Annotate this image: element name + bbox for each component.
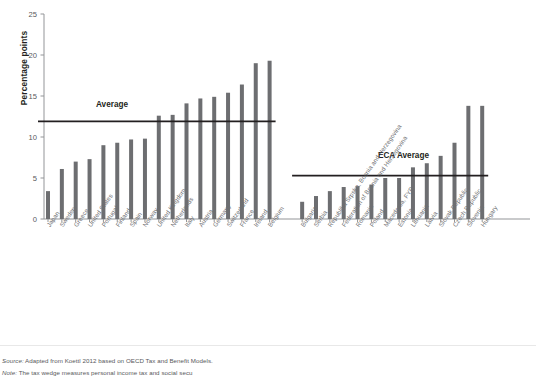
note-text: The tax wedge measures personal income t…: [17, 369, 193, 376]
y-tick-label: 0: [17, 215, 37, 224]
bar: [46, 191, 50, 219]
y-tick-label: 15: [17, 92, 37, 101]
bar: [226, 93, 230, 219]
bar: [212, 97, 216, 219]
y-tick-label: 10: [17, 133, 37, 142]
note-label: Note:: [2, 369, 17, 376]
y-tick-label: 20: [17, 51, 37, 60]
average-line-label: Average: [96, 100, 128, 109]
bar: [143, 139, 147, 219]
bar: [480, 106, 484, 219]
source-note: Source: Adapted from Koettl 2012 based o…: [2, 357, 213, 364]
bar: [60, 169, 64, 219]
bar: [198, 98, 202, 219]
bar: [129, 139, 133, 219]
bar: [254, 63, 258, 219]
bar: [157, 116, 161, 219]
bar: [439, 156, 443, 219]
y-tick-label: 5: [17, 174, 37, 183]
chart-note: Note: The tax wedge measures personal in…: [2, 369, 193, 376]
y-tick-label: 25: [17, 10, 37, 19]
bar: [268, 61, 272, 219]
footer-divider: [0, 345, 536, 346]
bar-chart-plot: [0, 0, 536, 378]
figure-container: Percentage points Average ECA Average 05…: [0, 0, 536, 378]
source-text: Adapted from Koettl 2012 based on OECD T…: [24, 357, 213, 364]
source-label: Source:: [2, 357, 24, 364]
